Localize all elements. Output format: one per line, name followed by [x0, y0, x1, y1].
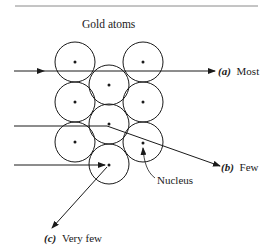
nucleus-dot — [108, 123, 111, 126]
path-c-letter: (c) — [44, 232, 56, 244]
nucleus-dot — [142, 142, 145, 145]
diagram-title: Gold atoms — [82, 19, 135, 31]
nucleus-dot — [142, 101, 145, 104]
nucleus-dot — [74, 61, 77, 64]
nucleus-dot — [108, 84, 111, 87]
nucleus-pointer — [143, 148, 155, 178]
nucleus-dot — [74, 141, 77, 144]
nucleus-dot — [142, 61, 145, 64]
path-b-label: (b) Few — [221, 162, 259, 173]
path-b-text: Few — [240, 161, 259, 173]
path-c-label: (c) Very few — [44, 233, 102, 244]
gold-atoms — [55, 42, 163, 184]
nucleus-label: Nucleus — [157, 175, 193, 186]
path-a-letter: (a) — [218, 65, 231, 77]
path-b-letter: (b) — [221, 161, 234, 173]
rutherford-scattering-diagram — [0, 0, 273, 250]
path-a-label: (a) Most — [218, 66, 259, 77]
path-c-text: Very few — [62, 232, 102, 244]
nuclei — [74, 61, 145, 167]
path-c-arrow — [14, 165, 107, 228]
nucleus-dot — [74, 101, 77, 104]
nucleus-dot — [108, 164, 111, 167]
path-a-text: Most — [237, 65, 260, 77]
